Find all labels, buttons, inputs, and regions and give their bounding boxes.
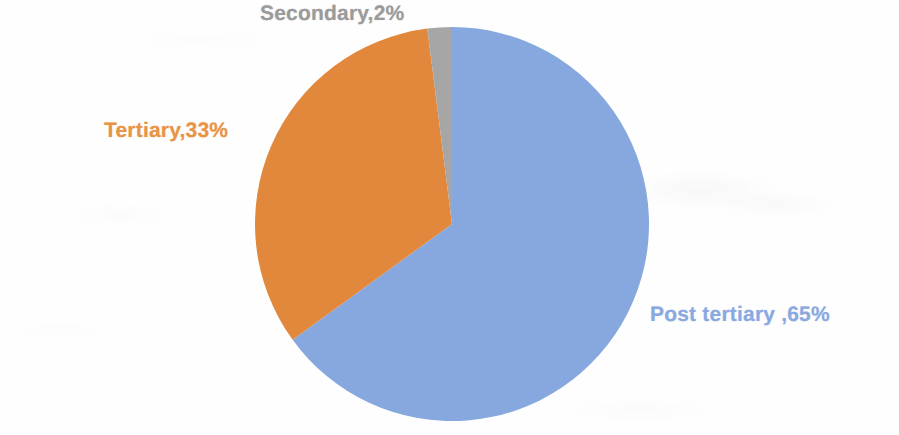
pie-chart-graphic (0, 0, 899, 435)
pie-label-post-tertiary: Post tertiary ,65% (650, 303, 830, 327)
pie-label-tertiary: Tertiary,33% (104, 119, 228, 143)
pie-label-secondary: Secondary,2% (260, 2, 404, 26)
pie-slices-group (255, 27, 649, 421)
pie-chart-canvas: Secondary,2% Tertiary,33% Post tertiary … (0, 0, 899, 435)
